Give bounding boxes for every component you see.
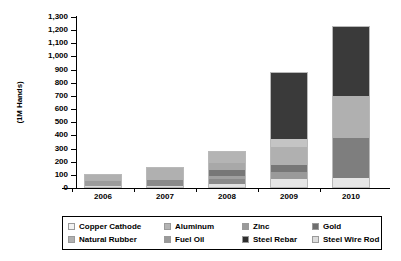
y-axis-tick-label: 100	[26, 171, 68, 179]
bar-2006	[84, 174, 122, 188]
legend-item-label: Natural Rubber	[79, 235, 137, 244]
bar-2008	[208, 151, 246, 188]
legend-item-label: Steel Rebar	[253, 235, 297, 244]
bar-segment-gold	[209, 163, 245, 170]
x-axis-label-2010: 2010	[323, 192, 379, 202]
legend-item-gold[interactable]: Gold	[312, 222, 372, 231]
y-axis-tick	[71, 70, 76, 71]
bar-segment-fuel-oil	[271, 172, 307, 179]
legend-swatch-icon	[68, 223, 75, 230]
y-axis-tick-label: 0	[26, 184, 68, 192]
legend-item-label: Zinc	[253, 222, 269, 231]
x-axis-tick	[258, 188, 259, 192]
y-axis-tick-label-text: 100	[28, 171, 68, 179]
y-axis-tick	[71, 56, 76, 57]
y-axis-tick-label: 1,300	[26, 13, 68, 21]
x-axis-tick	[72, 188, 73, 192]
legend-item-steel-rebar[interactable]: Steel Rebar	[242, 235, 312, 244]
bar-segment-steel-wire-rod	[85, 186, 121, 187]
legend-swatch-icon	[68, 236, 75, 243]
y-axis-tick-label-text: 200	[28, 158, 68, 166]
bar-segment-steel-wire-rod	[333, 178, 369, 187]
legend-item-label: Aluminum	[175, 222, 214, 231]
bar-2007	[146, 167, 184, 188]
legend-swatch-icon	[242, 236, 249, 243]
y-axis-tick-label: 1,200	[26, 26, 68, 34]
bar-segment-steel-wire-rod	[209, 184, 245, 186]
y-axis-tick-label: 300	[26, 145, 68, 153]
y-axis-tick-label: 900	[26, 66, 68, 74]
y-axis-tick-label: 1,000	[26, 52, 68, 60]
y-axis-tick-label-text: 1,200	[28, 26, 68, 34]
y-axis-tick	[71, 43, 76, 44]
x-axis-label-2006: 2006	[75, 192, 131, 202]
y-axis-tick-label-text: 900	[28, 66, 68, 74]
legend-item-label: Gold	[323, 222, 341, 231]
chart-legend: Copper CathodeAluminumZincGold Natural R…	[62, 216, 382, 250]
legend-item-label: Fuel Oil	[175, 235, 204, 244]
bar-segment-zinc	[271, 139, 307, 147]
x-axis-tick	[134, 188, 135, 192]
y-axis-tick-label: 600	[26, 105, 68, 113]
legend-row: Natural RubberFuel OilSteel RebarSteel W…	[68, 233, 376, 246]
y-axis-tick-label-text: 800	[28, 79, 68, 87]
y-axis-tick-label: 400	[26, 131, 68, 139]
x-axis-tick	[320, 188, 321, 192]
y-axis-tick-label: 800	[26, 79, 68, 87]
x-axis-tick	[196, 188, 197, 192]
y-axis-tick	[71, 135, 76, 136]
legend-row: Copper CathodeAluminumZincGold	[68, 220, 376, 233]
y-axis-tick-label-text: 1,100	[28, 39, 68, 47]
legend-swatch-icon	[164, 236, 171, 243]
legend-item-steel-wire-rod[interactable]: Steel Wire Rod	[312, 235, 372, 244]
bar-2010	[332, 26, 370, 188]
y-axis-tick	[71, 122, 76, 123]
bar-segment-aluminum	[209, 152, 245, 163]
bar-segment-gold	[271, 147, 307, 165]
y-axis-tick	[71, 175, 76, 176]
x-axis-line	[62, 188, 390, 189]
y-axis-tick-label: 700	[26, 92, 68, 100]
y-axis-tick-label: 1,100	[26, 39, 68, 47]
bar-segment-natural-rubber	[333, 96, 369, 138]
bar-chart: (1M Hands) 01002003004005006007008009001…	[0, 0, 401, 261]
y-axis-tick	[71, 162, 76, 163]
legend-swatch-icon	[312, 223, 319, 230]
bar-segment-fuel-oil	[333, 138, 369, 178]
y-axis-tick	[71, 149, 76, 150]
bar-segment-steel-rebar	[333, 27, 369, 96]
y-axis-tick-label-text: 700	[28, 92, 68, 100]
legend-item-copper-cathode[interactable]: Copper Cathode	[68, 222, 164, 231]
y-axis-line	[76, 16, 77, 189]
y-axis-tick-label-text: 300	[28, 145, 68, 153]
bar-segment-steel-wire-rod	[147, 186, 183, 187]
y-axis-tick	[71, 96, 76, 97]
legend-swatch-icon	[164, 223, 171, 230]
bar-segment-steel-rebar	[271, 73, 307, 139]
legend-item-aluminum[interactable]: Aluminum	[164, 222, 242, 231]
y-axis-tick-label-text: 500	[28, 118, 68, 126]
legend-item-label: Steel Wire Rod	[323, 235, 379, 244]
y-axis-tick-label-text: 600	[28, 105, 68, 113]
x-axis-label-2007: 2007	[137, 192, 193, 202]
y-axis-tick-label: 500	[26, 118, 68, 126]
bar-2009	[270, 72, 308, 188]
y-axis-tick	[71, 109, 76, 110]
legend-swatch-icon	[312, 236, 319, 243]
bar-segment-steel-wire-rod	[271, 179, 307, 187]
legend-item-zinc[interactable]: Zinc	[242, 222, 312, 231]
y-axis-tick-label-text: 400	[28, 131, 68, 139]
legend-swatch-icon	[242, 223, 249, 230]
y-axis-tick-label-text: 1,300	[28, 13, 68, 21]
x-axis-label-2008: 2008	[199, 192, 255, 202]
y-axis-tick	[71, 17, 76, 18]
legend-item-fuel-oil[interactable]: Fuel Oil	[164, 235, 242, 244]
y-axis-tick-label-text: 0	[28, 184, 68, 192]
y-axis-tick	[71, 30, 76, 31]
y-axis-title-label: (1M Hands)	[15, 81, 24, 123]
bar-segment-natural-rubber	[271, 165, 307, 172]
y-axis-tick	[71, 83, 76, 84]
legend-item-label: Copper Cathode	[79, 222, 141, 231]
legend-item-natural-rubber[interactable]: Natural Rubber	[68, 235, 164, 244]
x-axis-label-2009: 2009	[261, 192, 317, 202]
